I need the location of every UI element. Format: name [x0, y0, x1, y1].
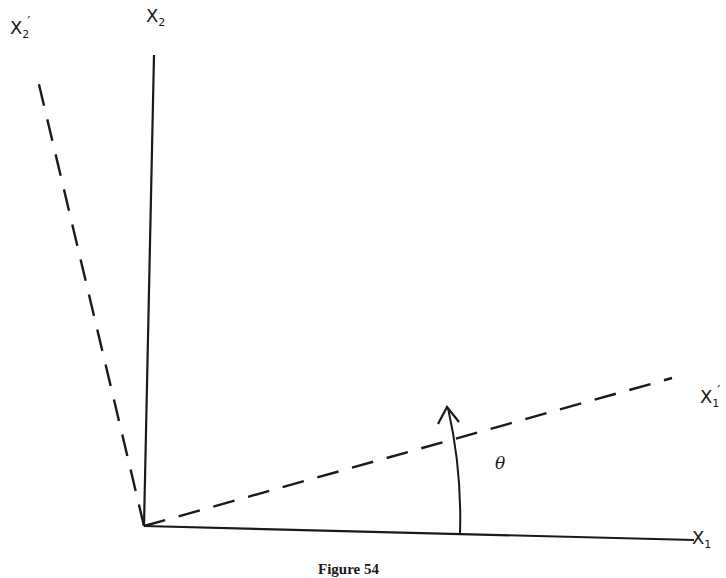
- x2-prime-label: X2′: [10, 19, 33, 40]
- angle-arrow-icon: [448, 408, 460, 533]
- x1-prime-axis: [144, 378, 672, 526]
- x2-prime-axis: [36, 72, 144, 526]
- x1-label: X1: [692, 529, 711, 550]
- x2-axis: [144, 55, 154, 526]
- angle-theta-label: θ: [495, 453, 505, 473]
- x1-axis: [144, 526, 694, 540]
- figure-caption: Figure 54: [318, 561, 379, 578]
- x2-label: X2: [146, 7, 165, 28]
- x1-prime-label: X1′: [700, 388, 723, 409]
